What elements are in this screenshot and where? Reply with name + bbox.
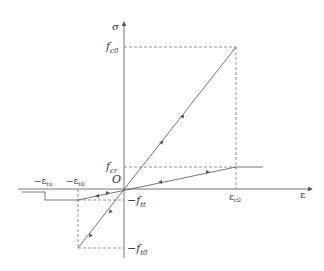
y-axis-label: σ [112,21,120,32]
tension-unload-line [78,167,236,200]
neg-ft0-label: −ft0 [127,242,148,257]
stress-strain-diagram: σ ε O fc0 fcr −ftt −ft0 εc0 −εt0 −εtu [0,0,324,271]
neg-etu-label: −εtu [34,176,53,187]
x-axis-label: ε [300,189,305,200]
neg-et0-label: −εt0 [66,176,85,187]
compression-line [78,47,236,248]
fcr-label: fcr [105,160,118,175]
ec0-label: εc0 [229,192,241,203]
loading-curves [22,47,263,248]
fc0-label: fc0 [105,40,119,55]
tension-softening [22,192,78,200]
neg-ftt-label: −ftt [127,194,146,209]
